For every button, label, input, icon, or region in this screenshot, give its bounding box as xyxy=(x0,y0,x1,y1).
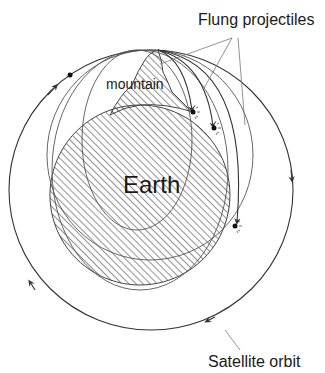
mountain-label: mountain xyxy=(106,76,164,92)
flung-projectiles-label: Flung projectiles xyxy=(198,11,315,28)
newton-cannonball-diagram: Flung projectiles mountain Earth Satelli… xyxy=(0,0,325,373)
earth-label: Earth xyxy=(123,171,180,198)
satellite-dot xyxy=(68,73,73,78)
satellite-orbit-label: Satellite orbit xyxy=(208,353,301,370)
